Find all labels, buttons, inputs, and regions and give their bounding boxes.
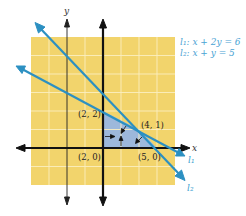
point-label-2-2: (2, 2) — [78, 109, 101, 119]
y-axis-label: y — [63, 6, 70, 16]
x-axis-label: x — [192, 143, 197, 153]
line-l2-label: l₂ — [187, 183, 194, 193]
point-label-2-0: (2, 0) — [78, 152, 101, 162]
point-label-4-1: (4, 1) — [141, 120, 164, 130]
legend-l1: l₁: x + 2y = 6 — [180, 37, 241, 47]
line-l1-label: l₁ — [188, 155, 195, 165]
linear-programming-diagram: (2, 2) (2, 0) (4, 1) (5, 0) y x l₁ l₂ l₁… — [0, 0, 246, 216]
legend-l2: l₂: x + y = 5 — [180, 48, 235, 58]
point-label-5-0: (5, 0) — [138, 152, 161, 162]
